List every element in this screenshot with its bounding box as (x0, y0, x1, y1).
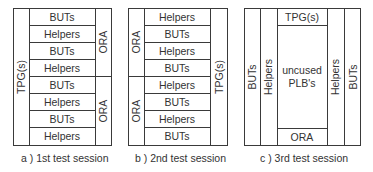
row-cell: BUTs (29, 76, 95, 93)
row-cell: Helpers (144, 42, 210, 59)
row-cell: BUTs (144, 93, 210, 110)
row-cell: BUTs (29, 8, 95, 25)
row-cell: Helpers (144, 8, 210, 25)
unused-line1: uncused (282, 64, 322, 77)
unused-plbs: uncused PLB's (277, 25, 327, 128)
row-cell: Helpers (29, 93, 95, 110)
ora-cell: ORA (277, 128, 327, 146)
row-cell: BUTs (144, 127, 210, 145)
helpers-column: Helpers (260, 8, 277, 146)
tpg-label: TPG(s) (13, 8, 29, 146)
row-cell: BUTs (29, 42, 95, 59)
helpers-column: Helpers (327, 8, 344, 146)
unused-line2: PLB's (288, 77, 315, 90)
caption-c: c ) 3rd test session (260, 152, 348, 164)
tpg-cell: TPG(s) (277, 8, 327, 25)
caption-b: b ) 2nd test session (135, 152, 226, 164)
row-cell: BUTs (144, 25, 210, 42)
row-cell: Helpers (29, 127, 95, 145)
ora-label: ORA (95, 8, 112, 76)
row-cell: Helpers (29, 25, 95, 42)
tpg-label: TPG(s) (210, 8, 228, 146)
row-cell: BUTs (144, 59, 210, 76)
row-cell: Helpers (29, 59, 95, 76)
ora-label: ORA (128, 76, 144, 146)
row-cell: Helpers (144, 110, 210, 127)
ora-label: ORA (128, 8, 144, 76)
caption-a: a ) 1st test session (21, 152, 109, 164)
ora-label: ORA (95, 76, 112, 146)
buts-column: BUTs (344, 8, 361, 146)
row-cell: BUTs (29, 110, 95, 127)
buts-column: BUTs (244, 8, 260, 146)
row-cell: Helpers (144, 76, 210, 93)
